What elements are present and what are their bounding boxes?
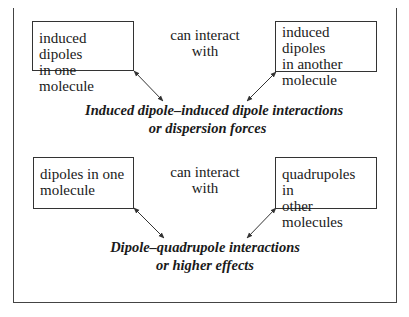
dispersion-forces-caption: Induced dipole–induced dipole interactio… — [85, 101, 330, 137]
box-text-line: molecule — [40, 182, 127, 198]
box-text-line: in one molecule — [39, 62, 127, 94]
box-text-line: quadrupoles in — [282, 166, 370, 198]
caption-line: Dipole–quadrupole interactions — [105, 238, 305, 256]
connector-text: with — [145, 43, 265, 59]
connector-text: can interact — [145, 27, 265, 43]
caption-line: or dispersion forces — [85, 119, 330, 137]
box-text-line: induced dipoles — [39, 30, 127, 62]
box-text-line: in another — [282, 56, 370, 72]
can-interact-with-label: can interact with — [145, 27, 265, 59]
caption-line: Induced dipole–induced dipole interactio… — [85, 101, 330, 119]
quadrupoles-other-molecules-box: quadrupoles in other molecules — [275, 157, 377, 209]
box-text-line: dipoles in one — [40, 166, 127, 182]
box-text-line: induced dipoles — [282, 24, 370, 56]
caption-line: or higher effects — [105, 256, 305, 274]
induced-dipoles-one-molecule-box: induced dipoles in one molecule — [32, 21, 134, 71]
box-text-line: other molecules — [282, 198, 370, 230]
connector-text: can interact — [145, 164, 265, 180]
connector-text: with — [145, 180, 265, 196]
dipoles-one-molecule-box: dipoles in one molecule — [33, 157, 134, 209]
box-text-line: molecule — [282, 72, 370, 88]
dipole-quadrupole-caption: Dipole–quadrupole interactions or higher… — [105, 238, 305, 274]
can-interact-with-label: can interact with — [145, 164, 265, 196]
induced-dipoles-another-molecule-box: induced dipoles in another molecule — [275, 21, 377, 72]
